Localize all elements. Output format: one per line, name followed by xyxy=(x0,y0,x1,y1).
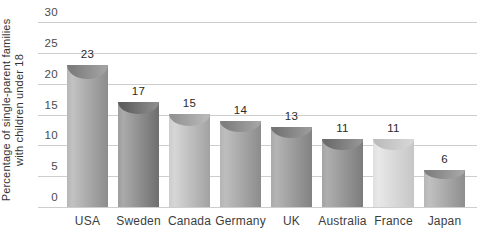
sweden-bar-top-crescent xyxy=(118,102,159,114)
y-tick-label-20: 20 xyxy=(38,68,58,80)
bars-row: 23USA17Sweden15Canada14Germany13UK11Aust… xyxy=(67,65,465,207)
japan-bar-top-crescent xyxy=(424,170,465,179)
value-label-usa: 23 xyxy=(55,48,120,60)
uk-bar-top-crescent xyxy=(271,127,312,138)
australia-bar-top-crescent xyxy=(322,139,363,150)
y-tick-label-10: 10 xyxy=(38,129,58,141)
y-tick-label-5: 5 xyxy=(38,160,58,172)
usa-bar: 23USA xyxy=(67,65,108,207)
germany-bar: 14Germany xyxy=(220,121,261,207)
y-axis-title-line-1: Percentage of single-parent families xyxy=(0,10,13,210)
australia-bar: 11Australia xyxy=(322,139,363,207)
value-label-sweden: 17 xyxy=(106,85,171,97)
plot-area: 051015202530 23USA17Sweden15Canada14Germ… xyxy=(38,0,477,233)
sweden-bar: 17Sweden xyxy=(118,102,159,207)
y-axis-title-line-2: with children under 18 xyxy=(13,10,26,210)
bar-chart-figure: Percentage of single-parent families wit… xyxy=(0,0,484,233)
japan-bar: 6Japan xyxy=(424,170,465,207)
canada-bar-top-crescent xyxy=(169,114,210,126)
france-bar: 11France xyxy=(373,139,414,207)
y-tick-label-0: 0 xyxy=(38,191,58,203)
x-label-japan: Japan xyxy=(408,214,481,228)
usa-bar-top-crescent xyxy=(67,65,108,79)
value-label-japan: 6 xyxy=(412,153,477,165)
y-tick-label-30: 30 xyxy=(38,6,58,18)
canada-bar: 15Canada xyxy=(169,114,210,207)
value-label-uk: 13 xyxy=(259,110,324,122)
y-axis-title: Percentage of single-parent families wit… xyxy=(0,10,28,210)
germany-bar-top-crescent xyxy=(220,121,261,132)
france-bar-top-crescent xyxy=(373,139,414,150)
gridline-30 xyxy=(38,22,477,23)
y-tick-label-15: 15 xyxy=(38,99,58,111)
uk-bar: 13UK xyxy=(271,127,312,207)
value-label-france: 11 xyxy=(361,122,426,134)
gridline-0 xyxy=(38,207,477,208)
